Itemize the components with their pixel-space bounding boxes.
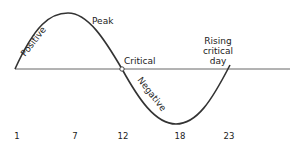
- day-tick-18: 18: [175, 131, 186, 141]
- day-tick-7: 7: [72, 131, 77, 141]
- negative-label: Negative: [135, 75, 168, 113]
- critical-point-marker: [120, 67, 124, 71]
- day-tick-23: 23: [224, 131, 235, 141]
- rising-label-line1: Rising: [204, 36, 231, 46]
- rising-label-line2: critical: [203, 46, 233, 56]
- peak-label: Peak: [92, 16, 114, 26]
- critical-label: Critical: [124, 56, 155, 66]
- positive-label: Positive: [19, 24, 49, 58]
- rising-label-line3: day: [210, 56, 227, 66]
- biorhythm-diagram: Positive Peak Critical Negative Rising c…: [0, 0, 290, 153]
- day-tick-12: 12: [118, 131, 129, 141]
- day-tick-1: 1: [14, 131, 19, 141]
